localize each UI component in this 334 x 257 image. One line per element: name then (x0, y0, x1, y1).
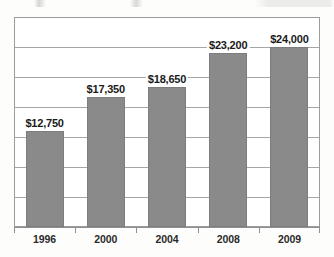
bar[interactable] (87, 97, 125, 227)
bar-group-2008: $23,200 (198, 17, 259, 227)
bar-group-2004: $18,650 (136, 17, 197, 227)
bar-value-label: $12,750 (23, 117, 65, 129)
bar[interactable] (209, 53, 247, 227)
bar-value-label: $23,200 (207, 39, 249, 51)
bar[interactable] (148, 87, 186, 227)
x-axis-labels: 1996 2000 2004 2008 2009 (14, 233, 320, 253)
x-axis-label-2004: 2004 (156, 233, 179, 245)
x-axis-label-1996: 1996 (33, 233, 56, 245)
bar-value-label: $24,000 (268, 33, 310, 45)
x-axis-label-2000: 2000 (94, 233, 117, 245)
x-axis-line (14, 227, 320, 228)
x-axis-label-2008: 2008 (217, 233, 240, 245)
bars-layer: $12,750 $17,350 $18,650 $23,200 $24,000 (14, 17, 320, 227)
bar-chart: $12,750 $17,350 $18,650 $23,200 $24,000 … (0, 0, 334, 257)
bar-value-label: $17,350 (85, 83, 127, 95)
bar[interactable] (270, 47, 308, 227)
bar-group-2000: $17,350 (75, 17, 136, 227)
bar-group-2009: $24,000 (259, 17, 320, 227)
bar[interactable] (26, 131, 64, 227)
scan-artifact-strip (0, 0, 334, 7)
bar-value-label: $18,650 (146, 73, 188, 85)
bar-group-1996: $12,750 (14, 17, 75, 227)
x-axis-label-2009: 2009 (278, 233, 301, 245)
